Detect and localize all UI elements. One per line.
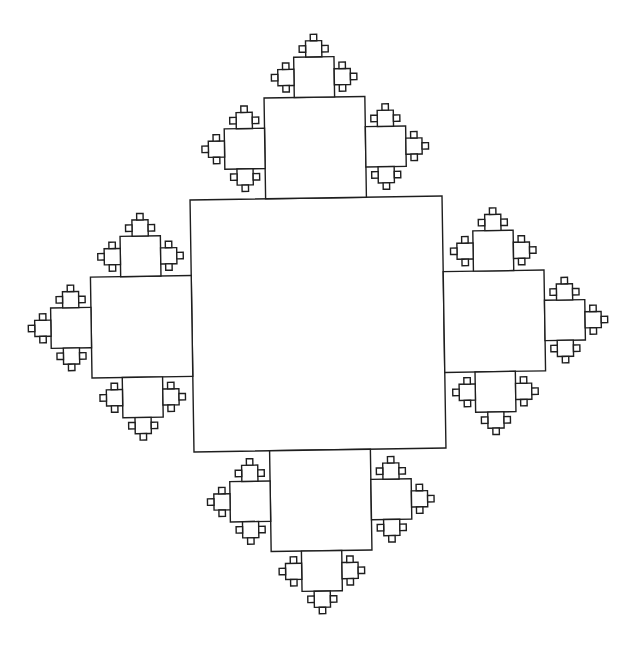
level-4-square <box>530 247 537 254</box>
level-4-square <box>572 288 579 295</box>
level-4-square <box>462 259 469 266</box>
level-4-square <box>40 336 47 343</box>
level-4-square <box>236 527 243 534</box>
level-4-square <box>319 607 326 614</box>
level-4-square <box>310 34 317 41</box>
level-4-square <box>464 400 471 407</box>
level-3-square <box>285 563 301 579</box>
level-4-square <box>453 389 460 396</box>
level-4-square <box>601 316 608 323</box>
level-3-square <box>557 340 573 356</box>
level-4-square <box>98 254 105 261</box>
level-4-square <box>246 459 253 466</box>
level-3-square <box>585 311 601 327</box>
level-3-square <box>377 110 393 126</box>
level-2-square <box>224 128 265 169</box>
level-4-square <box>393 115 400 122</box>
level-3-square <box>411 491 427 507</box>
level-4-square <box>399 468 406 475</box>
level-4-square <box>422 143 429 150</box>
level-4-square <box>235 470 242 477</box>
level-4-square <box>299 46 306 53</box>
level-4-square <box>109 265 116 272</box>
level-4-square <box>68 364 75 371</box>
level-2-square <box>301 550 342 591</box>
level-2-square <box>544 300 585 341</box>
level-4-square <box>213 157 220 164</box>
level-4-square <box>590 305 597 312</box>
level-4-square <box>501 219 508 226</box>
level-4-square <box>207 499 214 506</box>
level-4-square <box>291 579 298 586</box>
level-4-square <box>377 524 384 531</box>
level-4-square <box>219 510 226 517</box>
level-3-square <box>513 242 529 258</box>
level-4-square <box>308 596 315 603</box>
level-2-square <box>473 230 514 271</box>
level-3-square <box>278 69 294 85</box>
level-4-square <box>489 208 496 215</box>
level-2-square <box>365 126 406 167</box>
level-4-square <box>371 115 378 122</box>
level-4-square <box>478 219 485 226</box>
level-4-square <box>39 314 46 321</box>
level-4-square <box>347 578 354 585</box>
level-4-square <box>322 45 329 52</box>
level-4-square <box>28 325 35 332</box>
level-3-square <box>457 243 473 259</box>
level-3-square <box>556 284 572 300</box>
level-1-square <box>270 449 372 551</box>
level-4-square <box>339 62 346 69</box>
level-4-square <box>202 146 209 153</box>
level-4-square <box>372 172 379 179</box>
level-4-square <box>165 241 172 248</box>
level-4-square <box>532 388 539 395</box>
level-3-square <box>106 390 122 406</box>
level-2-square <box>294 57 335 98</box>
level-4-square <box>290 557 297 564</box>
level-4-square <box>166 264 173 271</box>
level-4-square <box>493 428 500 435</box>
level-4-square <box>411 154 418 161</box>
level-3-square <box>63 348 79 364</box>
level-4-square <box>428 495 435 502</box>
level-3-square <box>242 522 258 538</box>
fractal-squares-group <box>24 30 612 618</box>
level-3-square <box>236 112 252 128</box>
level-4-square <box>561 277 568 284</box>
level-4-square <box>151 422 158 429</box>
level-4-square <box>80 353 87 360</box>
level-4-square <box>57 353 64 360</box>
level-4-square <box>330 596 337 603</box>
level-4-square <box>213 135 220 142</box>
level-4-square <box>283 86 290 93</box>
level-3-square <box>104 248 120 264</box>
level-4-square <box>562 356 569 363</box>
level-4-square <box>400 524 407 531</box>
level-4-square <box>462 237 469 244</box>
level-4-square <box>168 405 175 412</box>
level-4-square <box>464 378 471 385</box>
level-4-square <box>416 484 423 491</box>
level-4-square <box>590 328 597 335</box>
level-4-square <box>111 406 118 413</box>
level-4-square <box>350 73 357 80</box>
level-4-square <box>282 63 289 70</box>
level-1-square <box>264 96 366 198</box>
level-2-square <box>371 479 412 520</box>
fractal-diagram <box>0 0 630 651</box>
level-3-square <box>406 138 422 154</box>
level-3-square <box>163 389 179 405</box>
level-4-square <box>271 74 278 81</box>
level-1-square <box>443 270 545 372</box>
level-4-square <box>148 225 155 232</box>
level-3-square <box>237 169 253 185</box>
level-4-square <box>258 470 265 477</box>
level-4-square <box>140 434 147 441</box>
level-4-square <box>219 487 226 494</box>
level-3-square <box>35 320 51 336</box>
level-4-square <box>573 345 580 352</box>
level-4-square <box>411 132 418 139</box>
level-4-square <box>450 248 457 255</box>
level-4-square <box>416 507 423 514</box>
